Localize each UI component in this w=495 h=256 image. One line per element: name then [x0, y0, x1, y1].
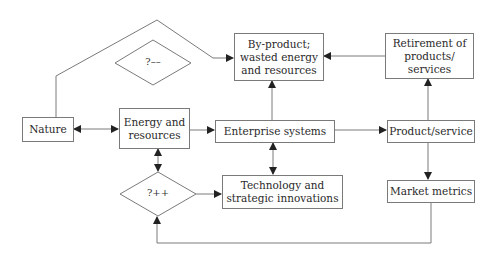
decision-minus-label: ?––	[133, 56, 173, 67]
node-market-metrics: Market metrics	[387, 180, 475, 203]
decision-plus-label: ?++	[138, 187, 178, 198]
node-retirement: Retirement of products/ services	[385, 33, 474, 79]
node-product-service: Product/service	[387, 120, 475, 143]
diagram-canvas: ?–– ?++ Nature Energy and resources Ente…	[0, 0, 495, 256]
node-enterprise-systems: Enterprise systems	[215, 120, 335, 143]
node-byproduct: By-product; wasted energy and resources	[234, 33, 324, 81]
node-energy-resources: Energy and resources	[119, 108, 190, 149]
node-technology: Technology and strategic innovations	[222, 175, 343, 209]
node-nature: Nature	[22, 117, 74, 142]
